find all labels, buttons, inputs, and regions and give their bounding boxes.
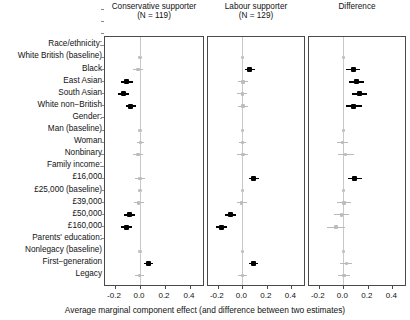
x-axis-tick-label: 0.2 (355, 291, 379, 300)
row-label-column: Race/ethnicity:White British (baseline)B… (0, 0, 104, 320)
estimate-point (351, 67, 356, 72)
estimate-point (342, 274, 345, 277)
estimate-point (340, 213, 343, 216)
row-group-label: Parents' education: (0, 233, 102, 242)
row-tick (101, 93, 104, 94)
x-axis-tick-label: -0.2 (306, 291, 330, 300)
estimate-point (124, 79, 129, 84)
row-item-label: £25,000 (baseline) (0, 185, 102, 194)
row-tick (101, 178, 104, 179)
panel-title-line1: Difference (308, 2, 406, 11)
estimate-point (137, 201, 140, 204)
x-axis-tick-label: 0.0 (229, 291, 253, 300)
row-tick (101, 57, 104, 58)
estimate-point (341, 141, 344, 144)
x-axis-tick-label: 0.0 (330, 291, 354, 300)
panel-title: Conservative supporter(N = 119) (104, 2, 204, 21)
estimate-point (124, 225, 129, 230)
x-axis-tick (267, 285, 268, 289)
row-tick (101, 9, 104, 10)
row-item-label: Woman (0, 136, 102, 145)
row-tick (101, 105, 104, 106)
estimate-point (241, 153, 244, 156)
row-item-label: £160,000 (0, 221, 102, 230)
panel-title-line1: Conservative supporter (104, 2, 204, 11)
row-tick (101, 33, 104, 34)
row-item-label: Man (baseline) (0, 124, 102, 133)
estimate-point (127, 212, 132, 217)
x-axis-tick-label: 0.0 (127, 291, 151, 300)
row-tick (101, 202, 104, 203)
row-tick (101, 142, 104, 143)
row-group-label: Gender: (0, 112, 102, 121)
x-axis-tick (190, 285, 191, 289)
row-item-label: White British (baseline) (0, 51, 102, 60)
baseline-point (138, 189, 141, 192)
forest-plot-figure: Race/ethnicity:White British (baseline)B… (0, 0, 410, 320)
x-axis-tick (343, 285, 344, 289)
estimate-point (357, 91, 362, 96)
estimate-point (139, 141, 142, 144)
row-item-label: South Asian (0, 88, 102, 97)
x-axis-tick (392, 285, 393, 289)
row-tick (101, 21, 104, 22)
estimate-point (247, 67, 252, 72)
x-axis-tick (218, 285, 219, 289)
panel-title: Labour supporter(N = 129) (207, 2, 305, 21)
row-item-label: East Asian (0, 76, 102, 85)
x-axis-tick-label: 0.4 (379, 291, 403, 300)
panel-labour-supporter (207, 36, 305, 286)
row-item-label: £16,000 (0, 172, 102, 181)
row-tick (101, 166, 104, 167)
row-item-label: Nonlegacy (baseline) (0, 245, 102, 254)
x-axis-tick (165, 285, 166, 289)
estimate-point (136, 68, 139, 71)
row-item-label: Legacy (0, 269, 102, 278)
estimate-point (342, 201, 345, 204)
baseline-point (241, 250, 244, 253)
estimate-point (138, 177, 141, 180)
row-tick (101, 69, 104, 70)
panel-conservative-supporter (104, 36, 204, 286)
panel-title-line2: (N = 129) (207, 11, 305, 20)
baseline-point (342, 56, 345, 59)
estimate-point (128, 104, 133, 109)
estimate-point (241, 92, 244, 95)
panel-title-line1: Labour supporter (207, 2, 305, 11)
estimate-point (354, 79, 359, 84)
row-item-label: Black (0, 64, 102, 73)
estimate-point (241, 80, 244, 83)
baseline-point (138, 250, 141, 253)
estimate-point (240, 201, 243, 204)
x-axis-tick (115, 285, 116, 289)
row-tick (101, 81, 104, 82)
plot-area-difference (309, 37, 405, 285)
panel-title-line2: (N = 119) (104, 11, 204, 20)
row-item-label: £39,000 (0, 197, 102, 206)
panel-difference (308, 36, 406, 286)
baseline-point (138, 129, 141, 132)
row-item-label: First−generation (0, 257, 102, 266)
estimate-point (228, 212, 233, 217)
estimate-point (241, 274, 244, 277)
x-axis-tick (242, 285, 243, 289)
baseline-point (241, 129, 244, 132)
estimate-point (251, 176, 256, 181)
baseline-point (342, 189, 345, 192)
row-tick (101, 154, 104, 155)
row-tick (101, 214, 104, 215)
baseline-point (241, 56, 244, 59)
x-axis-tick (319, 285, 320, 289)
plot-area-labour (208, 37, 304, 285)
estimate-point (138, 274, 141, 277)
row-tick (101, 190, 104, 191)
x-axis-tick (140, 285, 141, 289)
estimate-point (344, 153, 347, 156)
row-tick (101, 45, 104, 46)
x-axis-tick-label: -0.2 (102, 291, 126, 300)
row-tick (101, 238, 104, 239)
zero-reference-line (140, 37, 141, 285)
row-tick (101, 130, 104, 131)
x-axis-title: Average marginal component effect (and d… (0, 305, 410, 315)
estimate-point (251, 261, 256, 266)
